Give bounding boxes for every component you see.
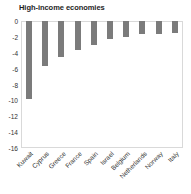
bar[interactable] xyxy=(42,21,48,66)
y-tick-label: -12 xyxy=(9,113,18,120)
bar-slot xyxy=(118,21,134,148)
bar[interactable] xyxy=(172,21,178,33)
y-axis: 0-2-4-6-8-10-12-14-16 xyxy=(0,21,21,148)
y-tick-label: -10 xyxy=(9,97,18,104)
bar[interactable] xyxy=(58,21,64,57)
y-tick-label: -8 xyxy=(12,81,18,88)
y-tick-label: 0 xyxy=(14,18,18,25)
bar[interactable] xyxy=(156,21,162,34)
bar[interactable] xyxy=(91,21,97,45)
bar-slot xyxy=(167,21,183,148)
y-tick-label: -4 xyxy=(12,49,18,56)
bar[interactable] xyxy=(75,21,81,50)
bar[interactable] xyxy=(107,21,113,39)
bar-slot xyxy=(86,21,102,148)
chart-title: High-income economies xyxy=(19,3,105,13)
bar-slot xyxy=(102,21,118,148)
bar[interactable] xyxy=(123,21,129,37)
y-tick-label: -2 xyxy=(12,33,18,40)
bar-slot xyxy=(53,21,69,148)
bar-slot xyxy=(37,21,53,148)
x-axis: KuwaitCyprusGreeceFranceSpainIsraelBelgi… xyxy=(21,148,183,194)
y-tick-label: -16 xyxy=(9,145,18,152)
bar-slot xyxy=(134,21,150,148)
bar[interactable] xyxy=(139,21,145,34)
y-tick-label: -6 xyxy=(12,65,18,72)
bar-slot xyxy=(151,21,167,148)
bar-chart: High-income economies 0-2-4-6-8-10-12-14… xyxy=(0,0,191,194)
bar-slot xyxy=(70,21,86,148)
bar[interactable] xyxy=(26,21,32,99)
y-tick-label: -14 xyxy=(9,129,18,136)
bar-slot xyxy=(21,21,37,148)
bars-layer xyxy=(21,21,183,148)
